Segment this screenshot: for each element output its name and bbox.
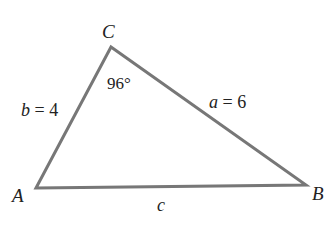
side-label-c: c [157, 196, 165, 214]
vertex-label-c: C [102, 22, 115, 41]
side-a-variable: a [209, 92, 218, 112]
vertex-label-a: A [12, 186, 24, 205]
side-label-b: b = 4 [21, 101, 58, 119]
vertex-label-b: B [312, 184, 324, 203]
side-label-a: a = 6 [209, 93, 246, 111]
angle-label-c: 96° [107, 75, 131, 92]
side-b-variable: b [21, 100, 30, 120]
triangle-abc [36, 47, 306, 188]
side-b-value: = 4 [30, 100, 58, 120]
side-a-value: = 6 [218, 92, 246, 112]
